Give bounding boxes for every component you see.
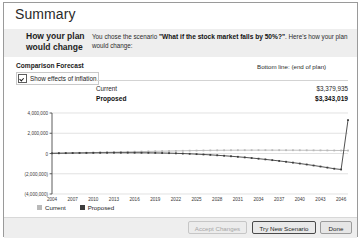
- svg-text:2019: 2019: [150, 197, 161, 202]
- legend-item-proposed: Proposed: [80, 204, 115, 211]
- intro-heading: How your plan would change: [26, 31, 94, 52]
- svg-text:2016: 2016: [129, 197, 140, 202]
- done-button[interactable]: Done: [320, 221, 352, 234]
- legend-item-current: Current: [37, 204, 66, 211]
- accept-changes-button[interactable]: Accept Changes: [188, 221, 247, 234]
- svg-text:(2,000,000): (2,000,000): [25, 172, 49, 177]
- svg-text:2037: 2037: [274, 197, 285, 202]
- bottom-line-label: Bottom line: (end of plan): [257, 63, 326, 70]
- svg-text:2046: 2046: [336, 197, 347, 202]
- chart-legend: Current Proposed: [37, 204, 114, 211]
- intro-scenario-name: "What if the stock market falls by 50%?": [159, 33, 285, 40]
- svg-text:2034: 2034: [253, 197, 264, 202]
- summary-dialog: Summary How your plan would change You c…: [0, 0, 361, 240]
- chart-svg: 4,000,0002,000,0000(2,000,000)(4,000,000…: [16, 107, 352, 212]
- legend-swatch: [37, 205, 42, 210]
- bottom-line-name: Current: [96, 85, 117, 92]
- bottom-line-divider: [96, 80, 348, 81]
- show-inflation-label: Show effects of inflation: [30, 75, 96, 82]
- svg-text:2010: 2010: [88, 197, 99, 202]
- bottom-line-value: $3,379,935: [316, 85, 348, 92]
- window-frame: Summary How your plan would change You c…: [3, 2, 358, 237]
- title-band: Summary: [4, 3, 357, 29]
- intro-strip: How your plan would change You chose the…: [4, 29, 357, 57]
- svg-text:2022: 2022: [171, 197, 182, 202]
- svg-text:2040: 2040: [295, 197, 306, 202]
- svg-text:2031: 2031: [233, 197, 244, 202]
- svg-text:4,000,000: 4,000,000: [28, 111, 49, 116]
- svg-text:2013: 2013: [109, 197, 120, 202]
- bottom-line-value: $3,343,019: [315, 95, 348, 102]
- legend-label: Proposed: [88, 204, 115, 211]
- comparison-forecast-chart: 4,000,0002,000,0000(2,000,000)(4,000,000…: [16, 107, 352, 212]
- svg-text:2007: 2007: [68, 197, 79, 202]
- try-new-scenario-button[interactable]: Try New Scenario: [252, 221, 316, 234]
- intro-body: You chose the scenario "What if the stoc…: [92, 32, 350, 50]
- svg-text:0: 0: [45, 152, 48, 157]
- svg-text:2,000,000: 2,000,000: [28, 131, 49, 136]
- svg-text:2004: 2004: [47, 197, 58, 202]
- checkmark-icon[interactable]: [18, 74, 27, 83]
- legend-label: Current: [45, 204, 66, 211]
- intro-text-before: You chose the scenario: [92, 33, 159, 40]
- svg-text:(4,000,000): (4,000,000): [25, 192, 49, 197]
- bottom-line-row-proposed: Proposed $3,343,019: [96, 95, 348, 106]
- page-title: Summary: [15, 6, 76, 22]
- svg-text:2043: 2043: [315, 197, 326, 202]
- svg-text:2025: 2025: [191, 197, 202, 202]
- show-inflation-checkbox[interactable]: Show effects of inflation: [16, 72, 99, 85]
- bottom-line-name: Proposed: [96, 95, 126, 102]
- dialog-button-bar: Accept Changes Try New Scenario Done: [4, 217, 357, 238]
- legend-swatch: [80, 205, 85, 210]
- svg-text:2028: 2028: [212, 197, 223, 202]
- comparison-forecast-label: Comparison Forecast: [16, 62, 84, 69]
